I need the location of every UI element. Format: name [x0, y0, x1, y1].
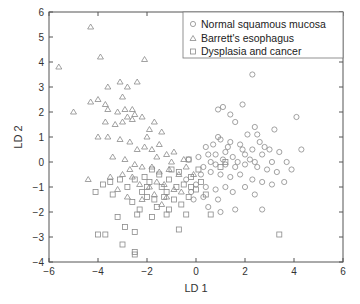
triangle-marker-icon	[95, 134, 101, 139]
circle-marker-icon	[252, 192, 257, 197]
circle-marker-icon	[269, 182, 274, 187]
triangle-marker-icon	[102, 119, 108, 124]
circle-marker-icon	[267, 147, 272, 152]
square-marker-icon	[115, 215, 120, 220]
triangle-marker-icon	[134, 79, 140, 84]
square-marker-icon	[167, 177, 172, 182]
circle-marker-icon	[198, 172, 203, 177]
circle-marker-icon	[242, 152, 247, 157]
circle-marker-icon	[208, 159, 213, 164]
circle-marker-icon	[250, 72, 255, 77]
circle-marker-icon	[277, 149, 282, 154]
scatter-chart: −6−4−20246 −4−3−2−10123456 LD 1 LD 2 Nor…	[0, 0, 360, 304]
x-tick-label: −2	[141, 266, 153, 277]
circle-marker-icon	[215, 197, 220, 202]
square-marker-icon	[157, 172, 162, 177]
triangle-marker-icon	[105, 134, 111, 139]
circle-marker-icon	[213, 187, 218, 192]
circle-marker-icon	[215, 107, 220, 112]
circle-marker-icon	[260, 152, 265, 157]
triangle-marker-icon	[159, 129, 165, 134]
triangle-marker-icon	[88, 99, 94, 104]
circle-marker-icon	[252, 124, 257, 129]
square-marker-icon	[149, 215, 154, 220]
y-tick-label: −2	[33, 207, 45, 218]
circle-marker-icon	[255, 164, 260, 169]
circle-marker-icon	[191, 197, 196, 202]
circle-marker-icon	[196, 154, 201, 159]
triangle-marker-icon	[85, 177, 91, 182]
square-marker-icon	[135, 212, 140, 217]
circle-marker-icon	[233, 164, 238, 169]
triangle-marker-icon	[122, 157, 128, 162]
y-tick-label: −3	[33, 232, 45, 243]
triangle-marker-icon	[139, 114, 145, 119]
triangle-marker-icon	[124, 114, 130, 119]
circle-marker-icon	[218, 172, 223, 177]
y-tick-label: 5	[38, 32, 44, 43]
square-marker-icon	[103, 232, 108, 237]
circle-marker-icon	[233, 207, 238, 212]
triangle-marker-icon	[115, 109, 121, 114]
circle-marker-icon	[238, 142, 243, 147]
triangle-marker-icon	[169, 159, 175, 164]
square-marker-icon	[125, 185, 130, 190]
circle-marker-icon	[213, 152, 218, 157]
circle-marker-icon	[284, 159, 289, 164]
circle-marker-icon	[206, 204, 211, 209]
x-tick-label: 4	[291, 266, 297, 277]
circle-marker-icon	[213, 162, 218, 167]
square-marker-icon	[122, 225, 127, 230]
triangle-marker-icon	[127, 167, 133, 172]
circle-marker-icon	[189, 189, 194, 194]
square-marker-icon	[140, 190, 145, 195]
triangle-marker-icon	[132, 162, 138, 167]
circle-marker-icon	[240, 102, 245, 107]
y-tick-label: 0	[38, 157, 44, 168]
triangle-marker-icon	[144, 134, 150, 139]
triangle-marker-icon	[183, 164, 189, 169]
triangle-marker-icon	[71, 109, 77, 114]
circle-marker-icon	[257, 139, 262, 144]
circle-marker-icon	[242, 162, 247, 167]
square-marker-icon	[132, 230, 137, 235]
square-marker-icon	[186, 195, 191, 200]
y-tick-label: 2	[38, 107, 44, 118]
square-marker-icon	[208, 212, 213, 217]
square-marker-icon	[145, 195, 150, 200]
legend-label-barretts: Barrett's esophagus	[201, 32, 294, 44]
circle-marker-icon	[255, 132, 260, 137]
triangle-marker-icon	[132, 112, 138, 117]
triangle-marker-icon	[102, 102, 108, 107]
circle-marker-icon	[272, 127, 277, 132]
circle-marker-icon	[242, 184, 247, 189]
triangle-marker-icon	[139, 164, 145, 169]
triangle-marker-icon	[56, 64, 62, 69]
triangle-marker-icon	[134, 147, 140, 152]
square-marker-icon	[194, 187, 199, 192]
triangle-marker-icon	[171, 149, 177, 154]
triangle-marker-icon	[127, 139, 133, 144]
circle-marker-icon	[223, 149, 228, 154]
circle-marker-icon	[299, 147, 304, 152]
circle-marker-icon	[262, 144, 267, 149]
triangle-marker-icon	[88, 24, 94, 29]
triangle-marker-icon	[120, 172, 126, 177]
circle-marker-icon	[223, 184, 228, 189]
triangle-marker-icon	[151, 119, 157, 124]
circle-marker-icon	[282, 179, 287, 184]
x-tick-label: 2	[242, 266, 248, 277]
circle-marker-icon	[264, 167, 269, 172]
circle-marker-icon	[208, 169, 213, 174]
triangle-marker-icon	[112, 122, 118, 127]
circle-marker-icon	[274, 169, 279, 174]
y-tick-label: −1	[33, 182, 45, 193]
triangle-marker-icon	[154, 179, 160, 184]
triangle-marker-icon	[95, 97, 101, 102]
circle-marker-icon	[250, 177, 255, 182]
triangle-marker-icon	[97, 54, 103, 59]
square-marker-icon	[152, 197, 157, 202]
triangle-marker-icon	[105, 107, 111, 112]
circle-marker-icon	[245, 132, 250, 137]
triangle-marker-icon	[129, 107, 135, 112]
